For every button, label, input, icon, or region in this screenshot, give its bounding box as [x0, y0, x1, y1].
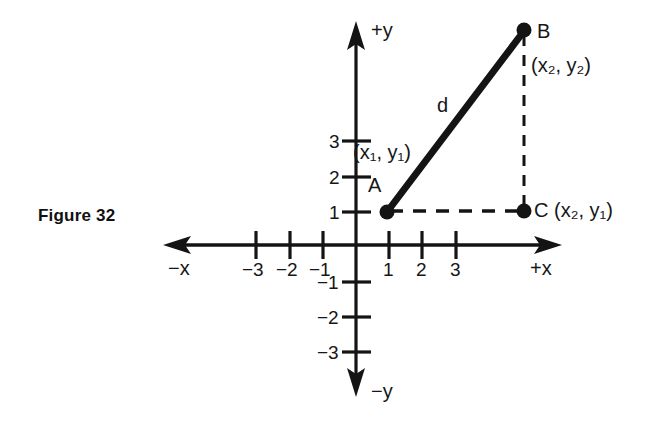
- x-tick-label-3: 3: [450, 260, 461, 279]
- point-a-coords-label: (x₁, y₁): [353, 142, 411, 162]
- point-b-marker: [517, 23, 532, 38]
- x-tick-label-1: 1: [383, 260, 394, 279]
- x-tick-label-neg-3: −3: [242, 260, 264, 279]
- x-tick-label-neg-2: −2: [276, 260, 298, 279]
- figure-container: Figure 32: [0, 0, 657, 440]
- point-b-label: B: [537, 21, 550, 41]
- point-c-marker: [517, 204, 532, 219]
- y-tick-label-2: 2: [329, 168, 340, 187]
- y-tick-label-neg-2: −2: [317, 308, 339, 327]
- point-c-label: C (x₂, y₁): [534, 200, 613, 220]
- y-tick-label-neg-1: −1: [317, 273, 339, 292]
- y-tick-label-neg-3: −3: [317, 343, 339, 362]
- x-axis-negative-label: −x: [168, 258, 190, 278]
- point-a-label: A: [368, 175, 381, 195]
- segment-ab-distance: [387, 31, 524, 212]
- point-b-coords-label: (x₂, y₂): [531, 55, 591, 75]
- y-tick-label-1: 1: [329, 203, 340, 222]
- distance-label-d: d: [437, 95, 448, 115]
- y-tick-label-3: 3: [329, 132, 340, 151]
- x-tick-label-2: 2: [416, 260, 427, 279]
- y-axis-positive-label: +y: [371, 20, 393, 40]
- y-axis-negative-label: −y: [371, 381, 393, 401]
- x-axis-positive-label: +x: [530, 258, 552, 278]
- point-a-marker: [380, 205, 395, 220]
